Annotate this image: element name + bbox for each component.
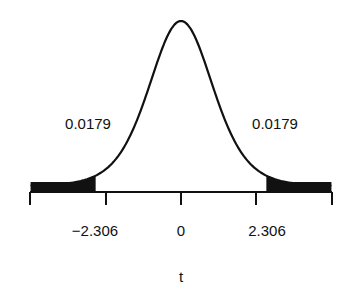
x-axis-title: t (179, 268, 184, 285)
left-tail-label: 0.0179 (65, 115, 111, 132)
right-tail-label: 0.0179 (252, 115, 298, 132)
x-axis-ticks (30, 192, 332, 205)
left-tail-shading (31, 176, 96, 191)
right-tail-shading (266, 176, 331, 191)
t-distribution-chart: 0.0179 0.0179 −2.306 0 2.306 t (0, 0, 349, 294)
tick-label-neg: −2.306 (72, 222, 118, 239)
density-curve (31, 21, 332, 186)
tick-label-pos: 2.306 (248, 222, 286, 239)
tick-label-zero: 0 (177, 222, 185, 239)
